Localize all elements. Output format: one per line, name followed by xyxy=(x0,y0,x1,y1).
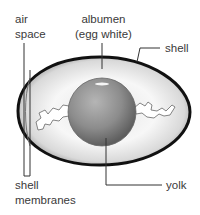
label-shell-membranes: shell membranes xyxy=(15,178,76,208)
label-shell: shell xyxy=(165,41,189,56)
label-air-space: air space xyxy=(15,12,46,42)
yolk-highlight xyxy=(95,83,109,86)
label-yolk: yolk xyxy=(166,178,186,193)
label-albumen: albumen (egg white) xyxy=(75,12,132,42)
yolk xyxy=(68,78,136,146)
leader-shell xyxy=(137,48,160,62)
